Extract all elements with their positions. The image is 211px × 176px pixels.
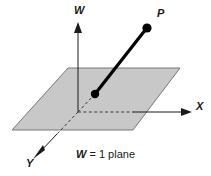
point-p-label: P bbox=[157, 8, 164, 19]
x-axis-label: X bbox=[196, 101, 203, 112]
plane-caption-variable: W bbox=[76, 148, 86, 160]
base-point-dot bbox=[91, 90, 99, 98]
w-axis-label: W bbox=[74, 5, 84, 16]
w-equals-1-plane-figure: W X Y P W = 1 plane bbox=[0, 0, 211, 176]
x-axis-arrowhead bbox=[181, 108, 192, 116]
point-p-dot bbox=[142, 23, 151, 32]
plane-caption-rest: = 1 plane bbox=[86, 148, 135, 160]
w-axis-arrowhead bbox=[74, 22, 82, 33]
w-plane-parallelogram bbox=[12, 68, 180, 130]
plane-caption: W = 1 plane bbox=[0, 148, 211, 160]
